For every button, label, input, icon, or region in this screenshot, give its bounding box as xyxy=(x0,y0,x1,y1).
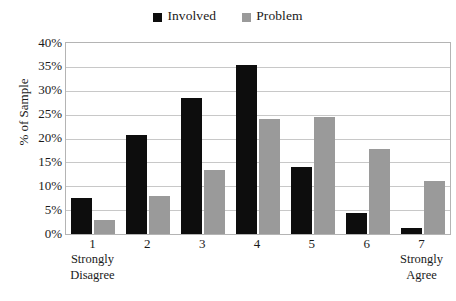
bar-problem-1 xyxy=(94,220,115,234)
bar-problem-4 xyxy=(259,119,280,234)
bar-involved-6 xyxy=(346,213,367,234)
legend-swatch-involved-icon xyxy=(153,13,162,22)
y-axis-tick-30: 30% xyxy=(20,83,62,96)
bar-involved-1 xyxy=(71,198,92,234)
y-axis-tick-5: 5% xyxy=(20,203,62,216)
legend-label-problem: Problem xyxy=(256,9,302,23)
y-axis-tick-35: 35% xyxy=(20,59,62,72)
bar-problem-7 xyxy=(424,181,445,234)
bar-involved-4 xyxy=(236,65,257,234)
x-axis-anchor-label-line-2: Agree xyxy=(377,268,456,283)
chart-legend: Involved Problem xyxy=(0,6,456,26)
bar-involved-2 xyxy=(126,135,147,234)
y-axis-tick-20: 20% xyxy=(20,131,62,144)
x-axis-anchor-label-line-1: Strongly xyxy=(377,252,456,267)
bar-problem-3 xyxy=(204,170,225,234)
x-axis-anchor-label-line-2: Disagree xyxy=(47,268,137,283)
legend-swatch-problem-icon xyxy=(242,13,251,22)
x-axis-tick-labels: 1StronglyDisagree234567StronglyAgree xyxy=(65,236,449,298)
y-axis-tick-25: 25% xyxy=(20,107,62,120)
legend-entry-involved: Involved xyxy=(153,9,216,23)
bars-layer xyxy=(66,43,450,234)
bar-involved-7 xyxy=(401,228,422,234)
bar-problem-2 xyxy=(149,196,170,234)
bar-problem-5 xyxy=(314,117,335,234)
legend-label-involved: Involved xyxy=(167,9,216,23)
x-axis-anchor-label-line-1: Strongly xyxy=(47,252,137,267)
bar-involved-5 xyxy=(291,167,312,234)
x-axis-tick-7: 7StronglyAgree xyxy=(377,236,456,282)
plot-area xyxy=(65,42,451,235)
y-axis-tick-40: 40% xyxy=(20,36,62,49)
y-axis-tick-10: 10% xyxy=(20,179,62,192)
legend-entry-problem: Problem xyxy=(242,9,302,23)
bar-problem-6 xyxy=(369,149,390,234)
bar-involved-3 xyxy=(181,98,202,234)
y-axis-tick-15: 15% xyxy=(20,155,62,168)
bar-chart-figure: Involved Problem % of Sample 40%35%30%25… xyxy=(0,0,456,301)
x-axis-tick-number: 7 xyxy=(377,236,456,251)
